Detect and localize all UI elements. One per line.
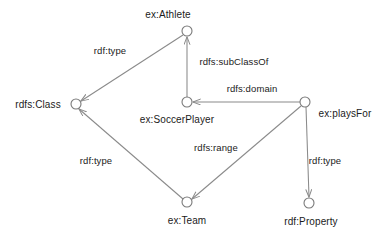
edge-label-playsfor-type-property: rdf:type <box>309 155 341 166</box>
node-label-playsfor: ex:playsFor <box>319 108 372 119</box>
edge-label-team-type-class: rdf:type <box>80 155 112 166</box>
node-label-property: rdf:Property <box>284 216 337 227</box>
node-playsfor[interactable] <box>300 97 310 107</box>
node-label-team: ex:Team <box>168 215 207 226</box>
node-label-athlete: ex:Athlete <box>145 9 190 20</box>
node-label-soccerplayer: ex:SoccerPlayer <box>140 114 214 125</box>
edge-playsfor-type-property <box>306 107 309 197</box>
node-athlete[interactable] <box>182 26 192 36</box>
rdf-graph-diagram: rdf:typerdfs:subClassOfrdfs:domainrdfs:r… <box>0 0 382 238</box>
edge-label-playsfor-range-team: rdfs:range <box>194 142 238 153</box>
node-rdfs_class[interactable] <box>71 99 81 109</box>
node-label-rdfs_class: rdfs:Class <box>15 99 60 110</box>
node-team[interactable] <box>182 197 192 207</box>
edge-label-playsfor-domain-soccer: rdfs:domain <box>227 83 278 94</box>
edge-label-athlete-type-class: rdf:type <box>94 45 126 56</box>
node-soccerplayer[interactable] <box>182 97 192 107</box>
node-property[interactable] <box>304 198 314 208</box>
edge-label-soccerplayer-sub-athlete: rdfs:subClassOf <box>199 56 268 67</box>
